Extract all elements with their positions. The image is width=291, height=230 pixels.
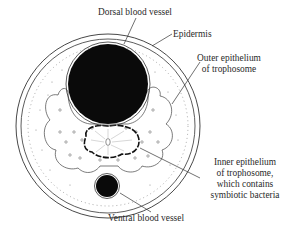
label-inner-epithelium-line1: Inner epithelium	[202, 157, 288, 168]
label-inner-epithelium-line2: of trophosome,	[202, 168, 288, 179]
label-epidermis: Epidermis	[173, 29, 212, 40]
label-outer-epithelium-line2: of trophosome	[189, 64, 269, 75]
label-inner-epithelium-line3: which contains	[202, 179, 288, 190]
label-outer-epithelium: Outer epithelium of trophosome	[189, 53, 269, 75]
ventral-blood-vessel	[96, 175, 118, 197]
label-ventral-blood-vessel: Ventral blood vessel	[108, 213, 184, 224]
dorsal-blood-vessel	[68, 44, 148, 124]
diagram-canvas: Dorsal blood vessel Epidermis Outer epit…	[0, 0, 291, 230]
label-inner-epithelium-line4: symbiotic bacteria	[202, 190, 288, 201]
label-dorsal-blood-vessel: Dorsal blood vessel	[98, 7, 172, 18]
label-inner-epithelium: Inner epithelium of trophosome, which co…	[202, 157, 288, 201]
label-outer-epithelium-line1: Outer epithelium	[189, 53, 269, 64]
